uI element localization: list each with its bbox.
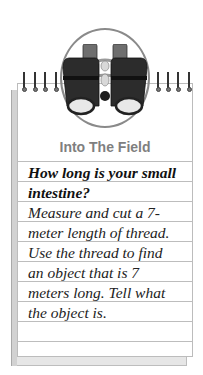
body-line: Use the thread to find xyxy=(28,244,163,262)
card-title: Into The Field xyxy=(17,139,193,155)
binoculars-icon xyxy=(57,44,153,116)
binding-pin-dot xyxy=(187,87,192,92)
question-line: How long is your small xyxy=(28,164,176,182)
body-line: the object is. xyxy=(28,304,107,322)
rule-line xyxy=(17,161,193,162)
body-line: Measure and cut a 7- xyxy=(28,204,160,222)
question-line: intestine? xyxy=(28,184,90,202)
rule-line xyxy=(17,341,193,342)
binding-pin-dot xyxy=(43,87,48,92)
binding-pin-dot xyxy=(33,87,38,92)
binding-pin-dot xyxy=(156,87,161,92)
binding-pin-dot xyxy=(176,87,181,92)
binding-pin-dot xyxy=(166,87,171,92)
binding-pin-dot xyxy=(22,87,27,92)
body-line: meter length of thread. xyxy=(28,224,169,242)
body-line: an object that is 7 xyxy=(28,264,139,282)
body-line: meters long. Tell what xyxy=(28,284,165,302)
